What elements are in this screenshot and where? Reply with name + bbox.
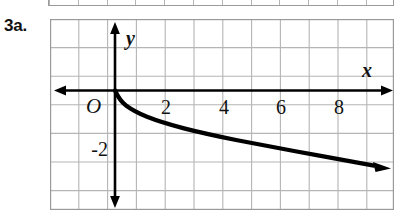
x-tick-label-4: 4 [219,96,229,118]
x-tick-label-8: 8 [334,96,344,118]
problem-number-label: 3a. [4,16,27,36]
y-tick-label-minus-2: -2 [91,138,108,160]
coordinate-graph: y x O 2 4 6 8 -2 [50,19,394,210]
y-axis-label: y [124,27,135,50]
graph-container: y x O 2 4 6 8 -2 [50,19,394,210]
x-tick-label-6: 6 [276,96,286,118]
cut-off-grid-strip [48,0,394,6]
origin-label: O [86,94,101,118]
worksheet-page: 3a. [0,0,410,218]
x-axis-label: x [361,59,372,81]
x-tick-label-2: 2 [161,96,171,118]
